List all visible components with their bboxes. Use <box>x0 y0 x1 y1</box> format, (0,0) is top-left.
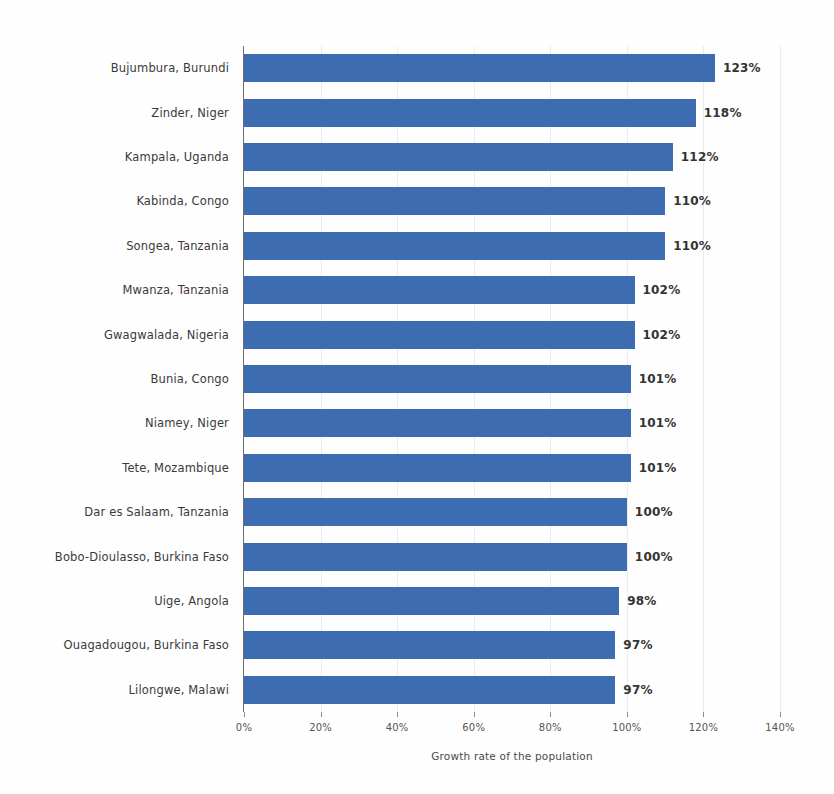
bar <box>244 276 635 304</box>
category-label: Mwanza, Tanzania <box>0 283 237 297</box>
bar <box>244 187 665 215</box>
bar <box>244 143 673 171</box>
x-tick-label: 140% <box>765 722 794 733</box>
bar-value-label: 102% <box>643 321 681 349</box>
x-tick-mark <box>627 712 628 717</box>
category-label: Lilongwe, Malawi <box>0 683 237 697</box>
bar <box>244 454 631 482</box>
category-label: Bobo-Dioulasso, Burkina Faso <box>0 550 237 564</box>
bar-chart: Bujumbura, BurundiZinder, NigerKampala, … <box>0 0 834 794</box>
bar-value-label: 118% <box>704 99 742 127</box>
category-label: Uige, Angola <box>0 594 237 608</box>
x-tick-label: 100% <box>612 722 641 733</box>
bar-value-label: 112% <box>681 143 719 171</box>
x-tick-label: 0% <box>236 722 252 733</box>
bar <box>244 676 615 704</box>
bar-value-label: 97% <box>623 631 652 659</box>
bar <box>244 365 631 393</box>
bar <box>244 321 635 349</box>
bar <box>244 232 665 260</box>
bar-value-label: 97% <box>623 676 652 704</box>
bar-value-label: 102% <box>643 276 681 304</box>
x-tick-label: 20% <box>309 722 332 733</box>
bar-value-label: 101% <box>639 365 677 393</box>
category-label: Ouagadougou, Burkina Faso <box>0 638 237 652</box>
bar-value-label: 100% <box>635 543 673 571</box>
bar <box>244 543 627 571</box>
bar-value-label: 98% <box>627 587 656 615</box>
x-tick-label: 60% <box>462 722 485 733</box>
x-tick-mark <box>321 712 322 717</box>
bar-value-label: 110% <box>673 232 711 260</box>
gridline <box>780 46 781 712</box>
bar <box>244 587 619 615</box>
x-tick-mark <box>550 712 551 717</box>
category-label: Dar es Salaam, Tanzania <box>0 505 237 519</box>
x-tick-mark <box>397 712 398 717</box>
bar-value-label: 100% <box>635 498 673 526</box>
category-label: Tete, Mozambique <box>0 461 237 475</box>
x-tick-mark <box>703 712 704 717</box>
category-label: Bunia, Congo <box>0 372 237 386</box>
x-tick-label: 120% <box>689 722 718 733</box>
bar-value-label: 110% <box>673 187 711 215</box>
category-label: Songea, Tanzania <box>0 239 237 253</box>
category-label: Gwagwalada, Nigeria <box>0 328 237 342</box>
bar <box>244 54 715 82</box>
bar <box>244 498 627 526</box>
bar-value-label: 101% <box>639 409 677 437</box>
bar-value-label: 123% <box>723 54 761 82</box>
x-axis-title: Growth rate of the population <box>244 750 780 762</box>
bar <box>244 631 615 659</box>
bar <box>244 409 631 437</box>
category-label: Zinder, Niger <box>0 106 237 120</box>
x-tick-mark <box>244 712 245 717</box>
category-label: Kampala, Uganda <box>0 150 237 164</box>
x-tick-mark <box>780 712 781 717</box>
bar <box>244 99 696 127</box>
category-label: Niamey, Niger <box>0 416 237 430</box>
x-tick-mark <box>474 712 475 717</box>
bar-value-label: 101% <box>639 454 677 482</box>
x-tick-label: 80% <box>539 722 562 733</box>
plot-area: 123%118%112%110%110%102%102%101%101%101%… <box>244 46 780 712</box>
category-label: Bujumbura, Burundi <box>0 61 237 75</box>
x-tick-label: 40% <box>386 722 409 733</box>
category-label: Kabinda, Congo <box>0 194 237 208</box>
